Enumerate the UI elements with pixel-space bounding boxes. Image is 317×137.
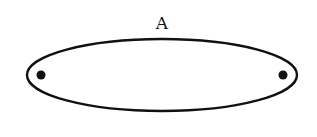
left-point-dot: [37, 71, 46, 80]
right-point-dot: [279, 71, 288, 80]
diagram-canvas: A: [0, 0, 317, 137]
set-ellipse: [27, 39, 297, 111]
set-label: A: [155, 13, 169, 33]
